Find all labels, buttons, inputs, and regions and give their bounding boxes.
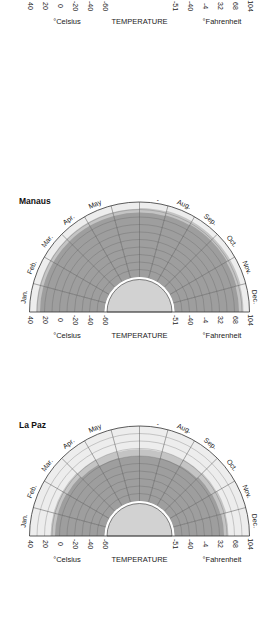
temperature-axis-label: TEMPERATURE xyxy=(111,555,167,564)
temperature-axis-label: TEMPERATURE xyxy=(111,331,167,340)
celsius-tick: 20 xyxy=(42,2,49,10)
fahrenheit-tick: -51 xyxy=(172,315,179,325)
celsius-tick: 20 xyxy=(42,540,49,548)
celsius-tick: -20 xyxy=(72,315,79,325)
fahrenheit-tick: 104 xyxy=(247,0,254,12)
celsius-tick: 40 xyxy=(27,2,34,10)
fahrenheit-unit-label: °Fahrenheit xyxy=(203,17,243,26)
fahrenheit-unit-label: °Fahrenheit xyxy=(203,555,243,564)
month-label: Feb. xyxy=(26,484,38,500)
fahrenheit-tick: 68 xyxy=(232,540,239,548)
fahrenheit-tick: -4 xyxy=(202,3,209,9)
celsius-unit-label: °Celsius xyxy=(53,555,81,564)
celsius-tick: -20 xyxy=(72,1,79,11)
chart-svg: Jan.Feb.Mar.Apr.MayJuneJulyAug.Sep.Oct.N… xyxy=(0,0,278,36)
celsius-unit-label: °Celsius xyxy=(53,17,81,26)
celsius-tick: 20 xyxy=(42,316,49,324)
celsius-tick: -60 xyxy=(102,315,109,325)
month-label: Dec. xyxy=(251,513,260,528)
month-label: July xyxy=(148,424,162,426)
fahrenheit-tick: 68 xyxy=(232,316,239,324)
month-label: Nov. xyxy=(241,484,253,500)
fahrenheit-unit-label: °Fahrenheit xyxy=(203,331,243,340)
city-title: La Paz xyxy=(19,420,46,430)
celsius-tick: 40 xyxy=(27,540,34,548)
celsius-tick: -40 xyxy=(87,1,94,11)
celsius-tick: -40 xyxy=(87,539,94,549)
temperature-axis-label: TEMPERATURE xyxy=(111,17,167,26)
month-label: June xyxy=(116,200,132,201)
chart-svg: Jan.Feb.Mar.Apr.MayJuneJulyAug.Sep.Oct.N… xyxy=(0,200,278,350)
temperature-chart-la-paz: Jan.Feb.Mar.Apr.MayJuneJulyAug.Sep.Oct.N… xyxy=(0,424,278,574)
celsius-tick: -60 xyxy=(102,1,109,11)
fahrenheit-tick: 104 xyxy=(247,538,254,550)
fahrenheit-tick: -40 xyxy=(187,315,194,325)
fahrenheit-tick: -51 xyxy=(172,1,179,11)
fahrenheit-tick: 104 xyxy=(247,314,254,326)
fahrenheit-tick: 32 xyxy=(217,540,224,548)
month-label: Jan. xyxy=(20,514,29,528)
celsius-tick: -40 xyxy=(87,315,94,325)
celsius-tick: 0 xyxy=(57,542,64,546)
month-label: July xyxy=(148,200,162,202)
fahrenheit-tick: 32 xyxy=(217,316,224,324)
fahrenheit-tick: -40 xyxy=(187,1,194,11)
fahrenheit-tick: -40 xyxy=(187,539,194,549)
city-title: Manaus xyxy=(19,196,51,206)
temperature-chart-unnamed: Jan.Feb.Mar.Apr.MayJuneJulyAug.Sep.Oct.N… xyxy=(0,0,278,36)
celsius-tick: 0 xyxy=(57,4,64,8)
fahrenheit-tick: 32 xyxy=(217,2,224,10)
temperature-chart-manaus: Jan.Feb.Mar.Apr.MayJuneJulyAug.Sep.Oct.N… xyxy=(0,200,278,350)
fahrenheit-tick: 68 xyxy=(232,2,239,10)
fahrenheit-tick: -51 xyxy=(172,539,179,549)
month-label: Jan. xyxy=(20,290,29,304)
month-label: Nov. xyxy=(241,260,253,276)
fahrenheit-tick: -4 xyxy=(202,541,209,547)
month-label: June xyxy=(116,424,132,425)
celsius-unit-label: °Celsius xyxy=(53,331,81,340)
month-label: Feb. xyxy=(26,260,38,276)
chart-svg: Jan.Feb.Mar.Apr.MayJuneJulyAug.Sep.Oct.N… xyxy=(0,424,278,574)
fahrenheit-tick: -4 xyxy=(202,317,209,323)
celsius-tick: -20 xyxy=(72,539,79,549)
celsius-tick: -60 xyxy=(102,539,109,549)
celsius-tick: 0 xyxy=(57,318,64,322)
month-label: Dec. xyxy=(251,289,260,304)
celsius-tick: 40 xyxy=(27,316,34,324)
